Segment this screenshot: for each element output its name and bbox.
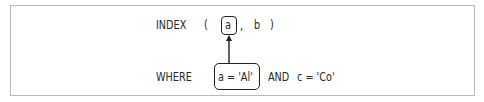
where-keyword: WHERE bbox=[156, 70, 192, 84]
where-and: AND bbox=[268, 70, 289, 84]
where-condition-c: c = 'Co' bbox=[297, 70, 335, 84]
where-condition-a: a = 'Al' bbox=[218, 70, 253, 84]
